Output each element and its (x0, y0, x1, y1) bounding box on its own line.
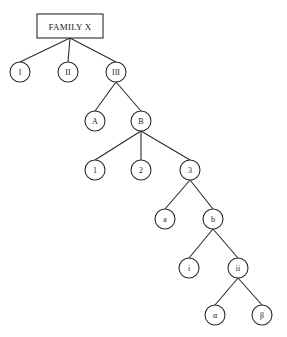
tree-svg-canvas: FAMILY XIIIIIIAB123abiiiαβ (0, 0, 287, 337)
tree-node-label-na: a (163, 215, 167, 224)
tree-edge-nThree-to-na (165, 180, 190, 209)
tree-node-label-nB: B (138, 117, 143, 126)
tree-node-label-nTwo: 2 (139, 166, 143, 175)
tree-node-label-n3: III (112, 68, 120, 77)
tree-edge-nB-to-nOne (95, 131, 141, 160)
nodes-layer: FAMILY XIIIIIIAB123abiiiαβ (10, 14, 272, 325)
tree-node-label-n2: II (65, 68, 71, 77)
tree-node-label-n1: I (19, 68, 22, 77)
tree-edge-nb-to-nii (213, 229, 238, 258)
tree-edge-nb-to-ni (189, 229, 213, 258)
tree-edge-nii-to-nalpha (215, 278, 238, 305)
tree-node-label-nb: b (211, 215, 215, 224)
tree-edge-root-to-n1 (20, 38, 70, 62)
tree-edge-nii-to-nbeta (238, 278, 262, 305)
tree-node-label-nA: A (92, 117, 98, 126)
tree-edge-n3-to-nB (116, 82, 141, 111)
tree-node-label-nbeta: β (260, 311, 264, 320)
family-tree-diagram: FAMILY XIIIIIIAB123abiiiαβ (0, 0, 287, 337)
tree-edge-root-to-n3 (70, 38, 116, 62)
tree-node-label-nOne: 1 (93, 166, 97, 175)
tree-edge-nThree-to-nb (190, 180, 213, 209)
root-node-label: FAMILY X (49, 22, 92, 32)
tree-edge-nB-to-nThree (141, 131, 190, 160)
tree-edge-n3-to-nA (95, 82, 116, 111)
tree-edge-root-to-n2 (68, 38, 70, 62)
tree-node-label-nThree: 3 (188, 166, 192, 175)
tree-node-label-nii: ii (236, 264, 241, 273)
